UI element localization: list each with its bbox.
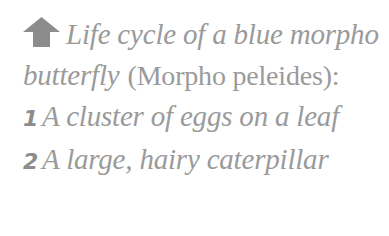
item-number-1: 1: [23, 106, 38, 131]
figure-caption: Life cycle of a blue morpho butterfly (M…: [23, 14, 383, 182]
item-text-1: A cluster of eggs on a leaf: [42, 100, 339, 132]
item-text-2: A large, hairy caterpillar: [42, 143, 328, 175]
up-arrow-icon: [23, 17, 60, 47]
item-number-2: 2: [23, 149, 38, 174]
scientific-name: (Morpho peleides):: [128, 60, 340, 91]
